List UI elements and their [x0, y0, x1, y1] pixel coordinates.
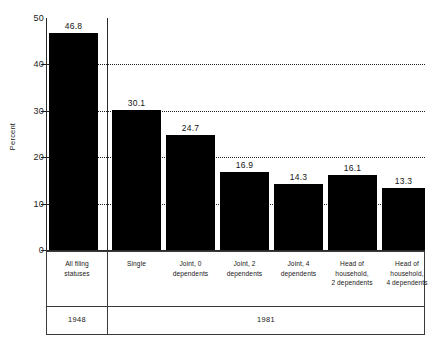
year-label-1981: 1981 [108, 315, 424, 324]
cat-line: statuses [64, 270, 89, 277]
y-tick-label-50: 50 [20, 13, 44, 23]
gridline-20 [47, 157, 425, 158]
bar-value-single: 30.1 [112, 98, 161, 108]
cat-line: household, [390, 270, 423, 277]
bar-value-joint-4-dependents: 14.3 [274, 172, 323, 182]
gridline-30 [47, 111, 425, 112]
bar-joint-4-dependents[interactable] [274, 184, 323, 250]
category-label-head-of-household-2-dependents: Head of household, 2 dependents [323, 259, 381, 288]
cat-line: 2 dependents [331, 279, 372, 286]
group-separator-line [107, 18, 108, 251]
bar-joint-0-dependents[interactable] [166, 135, 215, 250]
bar-value-joint-0-dependents: 24.7 [166, 123, 215, 133]
cat-line: Joint, 4 [287, 260, 309, 267]
cat-line: Head of [340, 260, 364, 267]
table-row-divider [46, 306, 425, 307]
cat-line: dependents [281, 270, 316, 277]
category-label-all-filing-statuses: All filing statuses [48, 259, 106, 278]
bar-value-joint-2-dependents: 16.9 [220, 160, 269, 170]
cat-line: All filing [65, 260, 89, 267]
bar-head-of-household-4-dependents[interactable] [382, 188, 425, 250]
cat-line: dependents [227, 270, 262, 277]
cat-line: Joint, 2 [233, 260, 255, 267]
bar-value-all-filing-statuses: 46.8 [49, 21, 98, 31]
cat-line: household, [335, 270, 368, 277]
cat-line: Head of [395, 260, 419, 267]
year-label-1948: 1948 [48, 315, 106, 324]
bar-value-head-of-household-4-dependents: 13.3 [380, 176, 427, 186]
y-axis-line [46, 18, 47, 251]
category-label-joint-4-dependents: Joint, 4 dependents [271, 259, 326, 278]
category-label-single: Single [109, 259, 164, 269]
gridline-40 [47, 64, 425, 65]
bar-joint-2-dependents[interactable] [220, 172, 269, 250]
cat-line: 4 dependents [386, 279, 427, 286]
category-label-head-of-household-4-dependents: Head of household, 4 dependents [378, 259, 436, 288]
bar-head-of-household-2-dependents[interactable] [328, 175, 377, 250]
cat-line: Joint, 0 [179, 260, 201, 267]
bar-all-filing-statuses[interactable] [49, 33, 98, 250]
bar-value-head-of-household-2-dependents: 16.1 [328, 163, 377, 173]
y-axis-title: Percent [8, 107, 17, 167]
cat-line: dependents [173, 270, 208, 277]
bar-single[interactable] [112, 110, 161, 250]
cat-line: Single [127, 260, 146, 267]
bar-chart: Percent 50 40 30 20 10 0 46.8 30.1 24.7 … [0, 0, 443, 345]
category-label-joint-2-dependents: Joint, 2 dependents [217, 259, 272, 278]
category-label-joint-0-dependents: Joint, 0 dependents [163, 259, 218, 278]
